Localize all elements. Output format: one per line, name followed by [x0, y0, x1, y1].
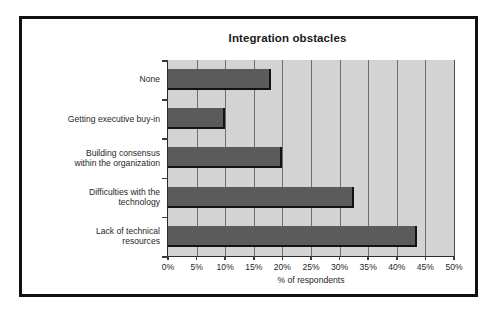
- bar-row: Lack of technical resources: [168, 217, 454, 256]
- bar-row: Building consensus within the organizati…: [168, 138, 454, 177]
- bar[interactable]: [168, 69, 271, 90]
- bar[interactable]: [168, 108, 225, 129]
- chart-title-text: Integration obstacles: [151, 32, 347, 44]
- x-axis-tick-label: 0%: [162, 262, 174, 272]
- chart-title: Integration obstacles: [22, 32, 475, 44]
- gridline: [454, 60, 455, 256]
- x-axis-tick: [367, 256, 369, 260]
- x-axis-tick-label: 10%: [217, 262, 234, 272]
- x-axis-tick-label: 45%: [417, 262, 434, 272]
- x-axis-tick: [425, 256, 427, 260]
- x-axis-tick-label: 5%: [190, 262, 202, 272]
- category-label: Difficulties with the technology: [10, 187, 160, 208]
- x-axis-tick: [453, 256, 455, 260]
- bar-row: Difficulties with the technology: [168, 178, 454, 217]
- x-axis-tick-label: 25%: [302, 262, 319, 272]
- bar-row: None: [168, 60, 454, 99]
- x-axis-tick: [282, 256, 284, 260]
- category-label: Getting executive buy-in: [10, 114, 160, 124]
- x-axis-tick: [196, 256, 198, 260]
- bar-row: Getting executive buy-in: [168, 99, 454, 138]
- x-axis-tick-label: 15%: [245, 262, 262, 272]
- x-axis-tick-label: 30%: [331, 262, 348, 272]
- figure-frame: Integration obstacles NoneGetting execut…: [19, 16, 478, 297]
- x-axis-tick: [167, 256, 169, 260]
- x-axis-tick: [224, 256, 226, 260]
- plot-area: NoneGetting executive buy-inBuilding con…: [167, 60, 454, 257]
- x-axis-tick: [339, 256, 341, 260]
- x-axis-tick: [310, 256, 312, 260]
- x-axis-tick: [253, 256, 255, 260]
- x-axis-tick-label: 35%: [360, 262, 377, 272]
- bar[interactable]: [168, 187, 354, 208]
- y-axis-tick: [162, 217, 168, 219]
- y-axis-tick: [162, 178, 168, 180]
- x-axis-tick-label: 20%: [274, 262, 291, 272]
- y-axis-tick: [162, 138, 168, 140]
- category-label: None: [10, 74, 160, 84]
- y-axis-tick: [162, 60, 168, 62]
- bar[interactable]: [168, 226, 417, 247]
- x-axis-title: % of respondents: [168, 275, 454, 285]
- x-axis-tick-label: 50%: [445, 262, 462, 272]
- category-label: Lack of technical resources: [10, 226, 160, 247]
- x-axis-tick: [396, 256, 398, 260]
- category-label: Building consensus within the organizati…: [10, 148, 160, 169]
- x-axis-tick-label: 40%: [388, 262, 405, 272]
- bar[interactable]: [168, 147, 282, 168]
- y-axis-tick: [162, 99, 168, 101]
